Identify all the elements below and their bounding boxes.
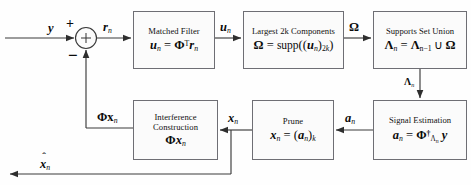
block-prune[interactable]: Prune xn = (an)k (252, 100, 334, 160)
label-pruned: xn (228, 111, 238, 126)
block-equation: Λn = Λn−1 ∪ Ω (384, 39, 455, 53)
label-omega: Ω (349, 20, 359, 35)
block-equation: Ω = supp((un)2k) (254, 39, 334, 53)
label-matched-output: un (220, 20, 231, 35)
block-equation: un = ΦTrn (150, 39, 198, 53)
block-equation: xn = (an)k (270, 129, 315, 143)
label-lambda: Λn (404, 76, 414, 88)
block-title: Supports Set Union (386, 27, 454, 36)
block-diagram-canvas: Matched Filter un = ΦTrn Largest 2k Comp… (0, 0, 471, 185)
block-matched-filter[interactable]: Matched Filter un = ΦTrn (133, 11, 215, 69)
label-residual: rn (103, 20, 112, 35)
block-equation: an = Φ†Λn y (393, 129, 448, 144)
label-plus-sign: + (66, 16, 74, 32)
block-signal-estimation[interactable]: Signal Estimation an = Φ†Λn y (373, 100, 467, 160)
label-estimate: an (345, 111, 355, 126)
block-title: Prune (283, 117, 303, 126)
label-interference: Φxn (97, 110, 118, 125)
block-interference-construction[interactable]: Interference Construction Φxn (133, 100, 218, 160)
block-title: Signal Estimation (389, 116, 451, 125)
block-largest-components[interactable]: Largest 2k Components Ω = supp((un)2k) (243, 11, 344, 69)
hat-accent: ˆ (41, 150, 47, 162)
label-input-y: y (48, 21, 54, 36)
block-title: Interference Construction (134, 112, 217, 132)
label-minus-sign: − (68, 46, 78, 66)
block-title: Matched Filter (148, 27, 200, 36)
block-equation: Φxn (165, 134, 186, 148)
block-title: Largest 2k Components (252, 27, 335, 36)
block-supports-set-union[interactable]: Supports Set Union Λn = Λn−1 ∪ Ω (373, 11, 467, 69)
label-output-estimate: ˆxn (40, 157, 50, 172)
